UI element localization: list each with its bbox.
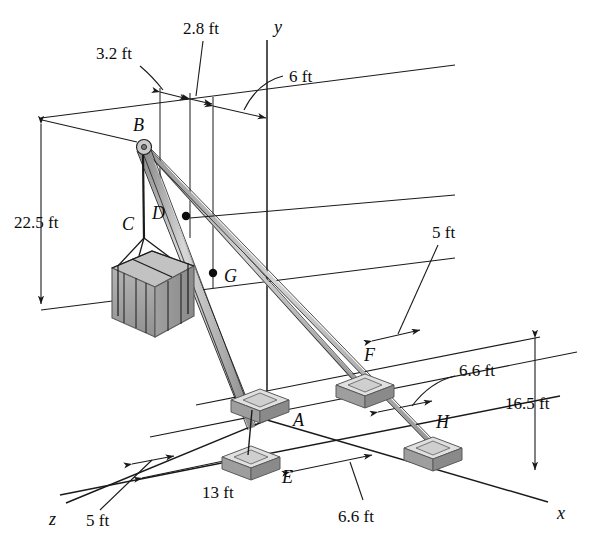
hoist-cable-bc [143, 155, 144, 238]
dim-arrow-6-6-lower [290, 455, 372, 472]
dim-arrow-5-left [132, 456, 174, 464]
figure-canvas: y x z 3.2 ft 2.8 ft 6 ft 22.5 f [0, 0, 590, 554]
dim-label-2-8: 2.8 ft [183, 19, 219, 38]
dim-label-6-6-lower: 6.6 ft [338, 507, 374, 526]
point-label-d: D [151, 203, 165, 223]
dim-label-5-left: 5 ft [86, 511, 109, 530]
point-label-e: E [281, 467, 293, 487]
pedestal-e: E [222, 446, 293, 487]
dim-arrow-6 [213, 106, 266, 118]
leader-5-right [398, 245, 438, 334]
ground-right-diagonal [288, 232, 577, 352]
plane-top-edge [41, 65, 455, 118]
dim-arrow-2-8 [190, 99, 212, 104]
dim-label-5-right: 5 ft [432, 223, 455, 242]
dim-group-22-5: 22.5 ft [14, 124, 59, 304]
plane-bottom-edge [41, 258, 455, 310]
leader-d-to-plane [190, 195, 455, 218]
point-label-h: H [435, 412, 450, 432]
point-label-a: A [292, 410, 305, 430]
leader-3-2 [140, 66, 163, 90]
dim-arrow-6-6-upper [378, 401, 432, 412]
dim-arrow-3-2 [160, 92, 188, 99]
leader-6 [244, 76, 283, 110]
dim-label-6: 6 ft [289, 67, 312, 86]
ext-16-5-top [455, 258, 537, 332]
leader-6-6-lower [350, 462, 363, 500]
leader-b-to-plane [42, 120, 137, 142]
back-reference-plane [41, 65, 455, 310]
point-label-b: B [133, 115, 144, 135]
point-label-g: G [224, 266, 237, 286]
dim-label-3-2: 3.2 ft [96, 44, 132, 63]
leader-2-8 [196, 41, 203, 96]
axis-label-x: x [556, 503, 565, 523]
pulley-axle [141, 144, 146, 149]
dim-label-16-5: 16.5 ft [505, 394, 550, 413]
dim-group-5-right: 5 ft [372, 223, 455, 341]
statics-figure: y x z 3.2 ft 2.8 ft 6 ft 22.5 f [0, 0, 590, 554]
axis-label-z: z [48, 509, 56, 529]
pulley-at-b [137, 140, 152, 155]
dim-group-5-left: 5 ft [86, 456, 174, 530]
point-marker-g [209, 269, 217, 277]
dim-label-13: 13 ft [202, 483, 234, 502]
dim-group-6-6-lower: 6.6 ft [290, 455, 374, 526]
ground-front-edge [60, 396, 560, 495]
top-dimension-group: 3.2 ft 2.8 ft 6 ft [96, 19, 312, 288]
point-label-c: C [122, 214, 135, 234]
dim-label-6-6-upper: 6.6 ft [459, 361, 495, 380]
crate [112, 251, 194, 337]
point-marker-d [182, 212, 190, 220]
dim-arrow-5-right [372, 330, 420, 341]
axis-label-y: y [272, 17, 282, 37]
dim-label-22-5: 22.5 ft [14, 213, 59, 232]
point-label-f: F [363, 345, 376, 365]
